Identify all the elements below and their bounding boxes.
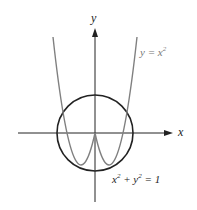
- parabola-label: y = x2: [140, 45, 166, 58]
- x-axis-label: x: [178, 125, 183, 140]
- circle-eq-rest: = 1: [142, 173, 160, 185]
- parabola-exp: 2: [163, 45, 167, 53]
- figure: y x y = x2 x2 + y2 = 1: [0, 0, 197, 210]
- x-axis-arrow-icon: [164, 130, 173, 136]
- y-axis-label: y: [91, 11, 96, 26]
- circle-eq-y: + y: [120, 173, 138, 185]
- parabola-eq: y = x: [140, 46, 163, 58]
- circle-label: x2 + y2 = 1: [112, 172, 160, 185]
- y-axis-arrow-icon: [92, 28, 98, 37]
- plot-canvas: [0, 0, 197, 210]
